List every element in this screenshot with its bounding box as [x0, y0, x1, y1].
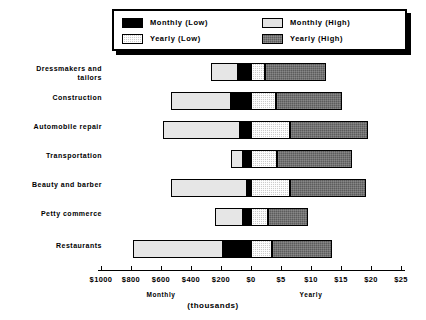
axis-side-label-yearly: Yearly	[300, 291, 323, 298]
bar-segment-yearly-low	[251, 92, 276, 110]
bar-segment-yearly-low	[251, 240, 272, 258]
bar-segment-yearly-low	[251, 150, 277, 168]
x-axis-tick-label-5: $0	[246, 275, 255, 284]
x-axis-tick-label-8: $15	[334, 275, 348, 284]
x-axis-tick-4	[221, 266, 222, 271]
bar-segment-yearly-high	[277, 150, 352, 168]
x-axis-tick-10	[401, 266, 402, 271]
x-axis-tick-2	[161, 266, 162, 271]
bar-segment-monthly-high	[133, 240, 223, 258]
x-axis-tick-1	[131, 266, 132, 271]
bar-chart: Monthly (Low) Yearly (Low) Monthly (High…	[0, 0, 426, 320]
x-axis-tick-label-2: $600	[152, 275, 170, 284]
bar-segment-monthly-low	[231, 92, 251, 110]
x-axis-tick-label-3: $400	[182, 275, 200, 284]
x-axis-tick-7	[311, 266, 312, 271]
bar-segment-yearly-low	[251, 121, 290, 139]
bar-segment-yearly-low	[251, 208, 268, 226]
x-axis-tick-label-7: $10	[304, 275, 318, 284]
x-axis-tick-8	[341, 266, 342, 271]
bar-segment-yearly-high	[272, 240, 332, 258]
x-axis-tick-label-0: $1000	[90, 275, 113, 284]
bar-segment-monthly-high	[231, 150, 243, 168]
bar-segment-yearly-high	[290, 121, 368, 139]
bar-row	[0, 92, 426, 110]
axis-side-label-monthly: Monthly	[146, 291, 175, 298]
bar-segment-monthly-low	[243, 150, 251, 168]
x-axis-tick-label-9: $20	[364, 275, 378, 284]
bar-segment-monthly-high	[215, 208, 243, 226]
bar-segment-yearly-low	[251, 63, 265, 81]
x-axis-tick-label-6: $5	[276, 275, 285, 284]
bar-row	[0, 208, 426, 226]
x-axis-tick-9	[371, 266, 372, 271]
bar-segment-monthly-low	[240, 121, 251, 139]
x-axis-tick-label-4: $200	[212, 275, 230, 284]
bar-row	[0, 63, 426, 81]
bar-segment-yearly-high	[268, 208, 308, 226]
bar-segment-yearly-high	[290, 179, 366, 197]
bar-segment-yearly-high	[276, 92, 342, 110]
bar-segment-monthly-high	[211, 63, 238, 81]
bar-row	[0, 150, 426, 168]
x-axis-tick-label-10: $25	[394, 275, 408, 284]
bar-segment-monthly-low	[243, 208, 251, 226]
bar-segment-yearly-low	[251, 179, 290, 197]
bar-segment-monthly-high	[171, 92, 231, 110]
x-axis-tick-label-1: $800	[122, 275, 140, 284]
bar-row	[0, 179, 426, 197]
bar-segment-monthly-low	[223, 240, 251, 258]
x-axis-units-label: (thousands)	[187, 301, 238, 310]
x-axis-tick-5	[251, 266, 252, 271]
plot-area: Dressmakers and tailorsConstructionAutom…	[0, 0, 426, 320]
bar-row	[0, 240, 426, 258]
x-axis-tick-0	[101, 266, 102, 271]
bar-segment-monthly-high	[171, 179, 247, 197]
bar-segment-yearly-high	[265, 63, 326, 81]
bar-row	[0, 121, 426, 139]
x-axis-tick-3	[191, 266, 192, 271]
bar-segment-monthly-low	[238, 63, 251, 81]
bar-segment-monthly-high	[163, 121, 240, 139]
x-axis-tick-6	[281, 266, 282, 271]
